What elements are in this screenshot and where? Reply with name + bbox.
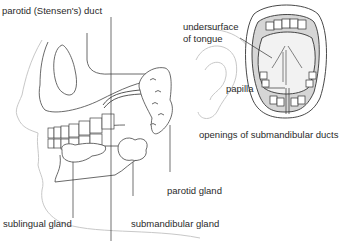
label-parotid-duct: parotid (Stensen's) duct <box>2 5 102 16</box>
label-papilla: papilla <box>226 83 253 94</box>
label-undersurface-line1: undersurface <box>183 21 238 32</box>
upper-teeth <box>48 114 114 138</box>
sublingual-gland <box>62 143 106 162</box>
submandibular-gland <box>118 138 147 161</box>
label-sublingual-gland: sublingual gland <box>3 218 72 229</box>
label-parotid-gland: parotid gland <box>167 185 222 196</box>
label-undersurface-line2: of tongue <box>183 33 223 44</box>
anatomy-illustration <box>0 0 347 241</box>
label-openings: openings of submandibular ducts <box>199 129 338 140</box>
parotid-gland <box>139 68 172 134</box>
label-submandibular-gland: submandibular gland <box>131 218 219 229</box>
